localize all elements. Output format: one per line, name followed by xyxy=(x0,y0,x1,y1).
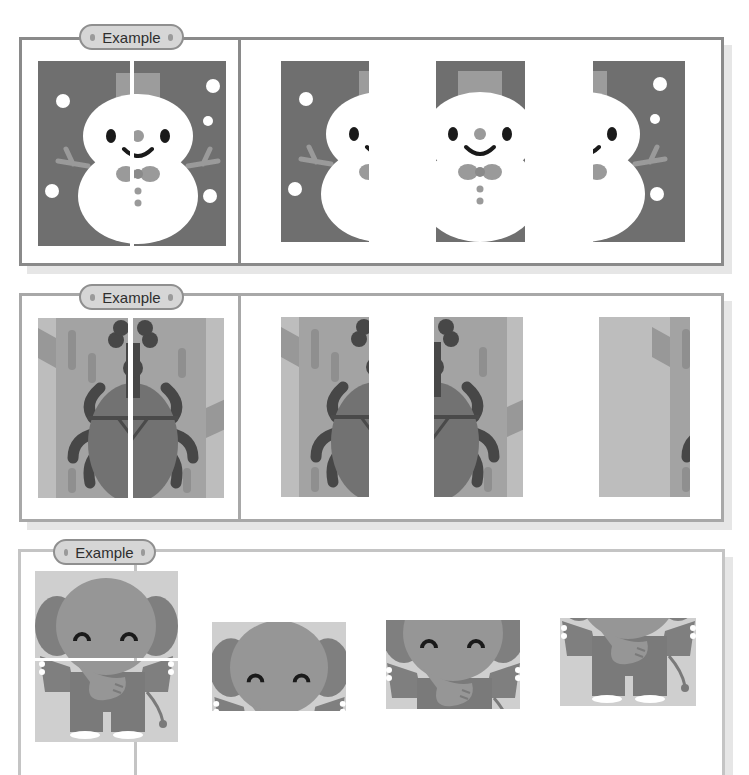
example-badge: Example xyxy=(53,539,156,565)
badge-dot-icon xyxy=(141,549,145,556)
badge-dot-icon xyxy=(168,294,173,301)
piece-option-3[interactable] xyxy=(593,61,685,242)
badge-dot-icon xyxy=(64,549,68,556)
panel-divider xyxy=(238,37,241,266)
badge-dot-icon xyxy=(168,34,173,41)
example-badge-label: Example xyxy=(75,544,133,561)
badge-dot-icon xyxy=(90,34,95,41)
piece-option-2[interactable] xyxy=(436,61,525,242)
example-badge-label: Example xyxy=(102,29,160,46)
piece-option-1[interactable] xyxy=(281,317,369,497)
piece-option-3[interactable] xyxy=(599,317,690,497)
example-left-half xyxy=(38,61,130,246)
example-badge: Example xyxy=(79,284,184,310)
example-badge-label: Example xyxy=(102,289,160,306)
example-right-half xyxy=(133,318,224,498)
piece-option-1[interactable] xyxy=(212,622,346,711)
piece-option-1[interactable] xyxy=(281,61,369,242)
example-bottom-half xyxy=(35,661,178,742)
panel-divider xyxy=(238,293,241,522)
piece-option-2[interactable] xyxy=(386,620,520,709)
example-top-half xyxy=(35,571,178,658)
puzzle-elephant xyxy=(18,549,725,775)
badge-dot-icon xyxy=(90,294,95,301)
example-left-half xyxy=(38,318,128,498)
example-right-half xyxy=(134,61,226,246)
piece-option-2[interactable] xyxy=(434,317,523,497)
example-badge: Example xyxy=(79,24,184,50)
piece-option-3[interactable] xyxy=(560,618,696,706)
puzzle-snowman xyxy=(19,37,724,266)
puzzle-beetle xyxy=(19,293,724,522)
